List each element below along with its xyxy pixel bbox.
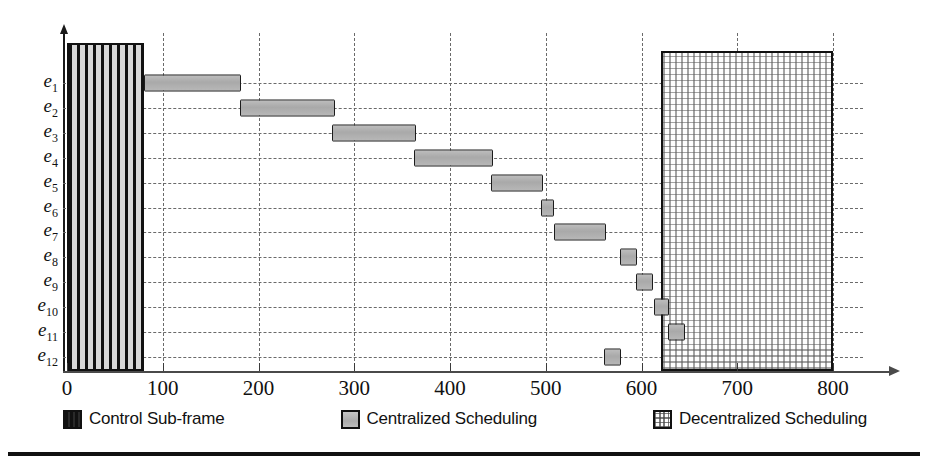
x-tick-label-800: 800 <box>817 376 849 401</box>
y-tick-label-e10: e10 <box>38 294 58 320</box>
x-tick-label-300: 300 <box>339 376 371 401</box>
chart-legend: Control Sub-frame Centralized Scheduling… <box>55 405 875 433</box>
y-tick-label-e5: e5 <box>44 170 58 196</box>
y-tick-label-e9: e9 <box>44 269 58 295</box>
x-tick-label-600: 600 <box>626 376 658 401</box>
legend-label-control-subframe: Control Sub-frame <box>89 409 225 429</box>
y-tick-label-e2: e2 <box>44 95 58 121</box>
legend-label-decentralized-scheduling: Decentralized Scheduling <box>679 409 867 429</box>
legend-entry-centralized-scheduling: Centralized Scheduling <box>341 409 537 429</box>
y-tick-label-e11: e11 <box>38 319 58 345</box>
legend-swatch-control-subframe-icon <box>63 410 82 429</box>
legend-swatch-decentralized-scheduling-icon <box>653 410 672 429</box>
x-axis-tick-labels: 0100200300400500600700800 <box>63 0 923 465</box>
y-tick-label-e8: e8 <box>44 244 58 270</box>
bottom-divider-rule <box>8 452 920 456</box>
y-axis-tick-labels: e1e2e3e4e5e6e7e8e9e10e11e12 <box>0 33 58 373</box>
legend-entry-control-subframe: Control Sub-frame <box>63 409 225 429</box>
legend-entry-decentralized-scheduling: Decentralized Scheduling <box>653 409 867 429</box>
legend-label-centralized-scheduling: Centralized Scheduling <box>367 409 537 429</box>
x-tick-label-400: 400 <box>434 376 466 401</box>
x-tick-label-0: 0 <box>62 376 73 401</box>
gantt-chart-figure: e1e2e3e4e5e6e7e8e9e10e11e12 010020030040… <box>0 0 928 465</box>
y-tick-label-e4: e4 <box>44 145 58 171</box>
legend-swatch-centralized-scheduling-icon <box>341 410 360 429</box>
y-tick-label-e3: e3 <box>44 120 58 146</box>
y-tick-label-e7: e7 <box>44 219 58 245</box>
x-tick-label-200: 200 <box>243 376 275 401</box>
y-tick-label-e1: e1 <box>44 70 58 96</box>
x-tick-label-100: 100 <box>147 376 179 401</box>
y-tick-label-e12: e12 <box>38 344 58 370</box>
x-tick-label-700: 700 <box>722 376 754 401</box>
x-tick-label-500: 500 <box>530 376 562 401</box>
y-tick-label-e6: e6 <box>44 195 58 221</box>
